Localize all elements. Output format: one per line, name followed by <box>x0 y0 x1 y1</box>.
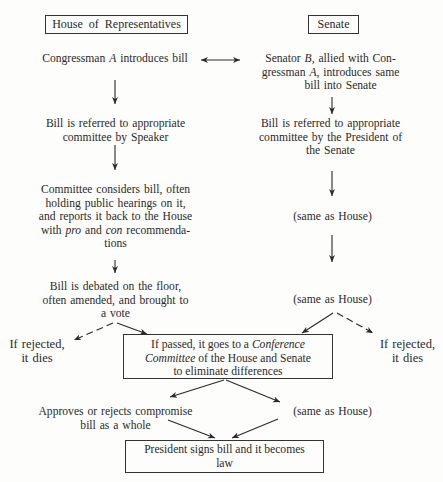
house-rejected-line2: it dies <box>2 351 72 365</box>
house-step4-line3: a vote <box>38 307 193 321</box>
house-step2-line1: Bill is referred to appropriate <box>38 117 193 131</box>
senate-step2-line1: Bill is referred to appropriate <box>253 117 408 131</box>
conference-line2: Committee of the House and Senate <box>132 352 324 366</box>
house-step-committee: Committee considers bill, often holding … <box>38 183 193 251</box>
senate-step1-line1: Senator B, allied with Con- <box>253 52 408 66</box>
arrow-icon <box>232 419 278 438</box>
compromise-line1: Approves or rejects compromise <box>38 405 193 419</box>
house-step3-line2: holding public hearings on it, <box>38 197 193 211</box>
senate-step2-line3: the Senate <box>253 144 408 158</box>
senate-step-debate: (same as House) <box>270 293 395 307</box>
house-header-box: House of Representatives <box>45 15 188 34</box>
house-rejected-line1: If rejected, <box>2 337 72 351</box>
house-step3-line5: tions <box>38 237 193 251</box>
house-rejected-outcome: If rejected, it dies <box>2 337 72 365</box>
house-step-debate: Bill is debated on the floor, often amen… <box>38 280 193 321</box>
senate-step-introduce: Senator B, allied with Con- gressman A, … <box>253 52 408 93</box>
house-step1-text-a: Congressman <box>42 52 109 65</box>
house-step1-text-b: introduces bill <box>116 52 188 65</box>
compromise-line2: bill as a whole <box>38 419 193 433</box>
conference-committee-box: If passed, it goes to a Conference Commi… <box>123 334 333 379</box>
house-step3-line3: and reports it back to the House <box>38 210 193 224</box>
house-step-refer: Bill is referred to appropriate committe… <box>38 117 193 144</box>
senate-rejected-outcome: If rejected, it dies <box>372 337 443 365</box>
house-header-label: House of Representatives <box>52 18 181 32</box>
legislative-process-diagram: House of Representatives Senate Congress… <box>0 0 443 482</box>
senate-compromise-label: (same as House) <box>293 405 372 418</box>
senate-step4-label: (same as House) <box>293 293 372 306</box>
senate-rejected-line1: If rejected, <box>372 337 443 351</box>
president-line2: law <box>134 457 315 471</box>
arrow-icon <box>302 313 333 333</box>
dashed-arrow-icon <box>337 313 373 333</box>
conference-line3: to eliminate differences <box>132 365 324 379</box>
arrow-icon <box>117 323 147 334</box>
house-step4-line2: often amended, and brought to <box>38 294 193 308</box>
senate-compromise-vote: (same as House) <box>275 405 390 419</box>
arrow-icon <box>170 380 224 397</box>
conference-line1: If passed, it goes to a Conference <box>132 338 324 352</box>
dashed-arrow-icon <box>74 323 113 340</box>
house-step-introduce: Congressman A introduces bill <box>30 52 200 66</box>
senate-step-refer: Bill is referred to appropriate committe… <box>253 117 408 158</box>
house-step2-line2: committee by Speaker <box>38 131 193 145</box>
house-step3-line1: Committee considers bill, often <box>38 183 193 197</box>
senate-step3-label: (same as House) <box>293 210 372 223</box>
arrow-icon <box>226 380 280 402</box>
house-step4-line1: Bill is debated on the floor, <box>38 280 193 294</box>
senate-step2-line2: committee by the President of <box>253 131 408 145</box>
president-line1: President signs bill and it becomes <box>134 443 315 457</box>
house-step3-line4: with pro and con recommenda- <box>38 224 193 238</box>
president-signs-box: President signs bill and it becomes law <box>125 440 324 473</box>
senate-step1-line3: bill into Senate <box>253 79 408 93</box>
senate-step1-line2: gressman A, introduces same <box>253 66 408 80</box>
senate-step-committee: (same as House) <box>270 210 395 224</box>
senate-header-box: Senate <box>308 15 359 34</box>
senate-rejected-line2: it dies <box>372 351 443 365</box>
senate-header-label: Senate <box>318 18 350 32</box>
house-compromise-vote: Approves or rejects compromise bill as a… <box>38 405 193 432</box>
